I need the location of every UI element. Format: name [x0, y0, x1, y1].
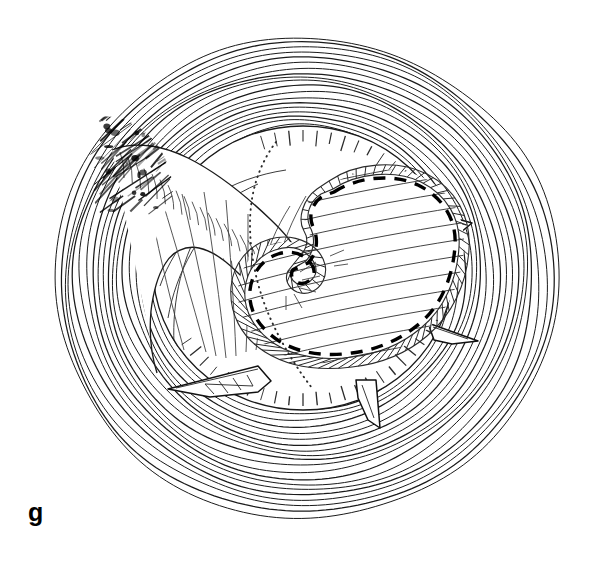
specimen-line-drawing [0, 0, 596, 561]
shading-blot [105, 169, 111, 175]
panel-label: g [28, 500, 43, 525]
shading-blot [132, 191, 137, 195]
shading-blot [111, 130, 120, 136]
shading-blot [153, 206, 159, 209]
shading-blot [141, 133, 145, 138]
shading-blot [131, 155, 139, 161]
shading-blot [135, 131, 140, 136]
shading-blot [104, 145, 113, 148]
shading-blot [137, 172, 140, 178]
shading-blot [140, 192, 145, 196]
figure-panel: g [0, 0, 596, 561]
rim-tick [289, 396, 290, 405]
shading-blot [111, 197, 119, 203]
shading-blot [95, 156, 104, 160]
bead-rung [449, 206, 461, 207]
shading-blot [108, 209, 115, 212]
